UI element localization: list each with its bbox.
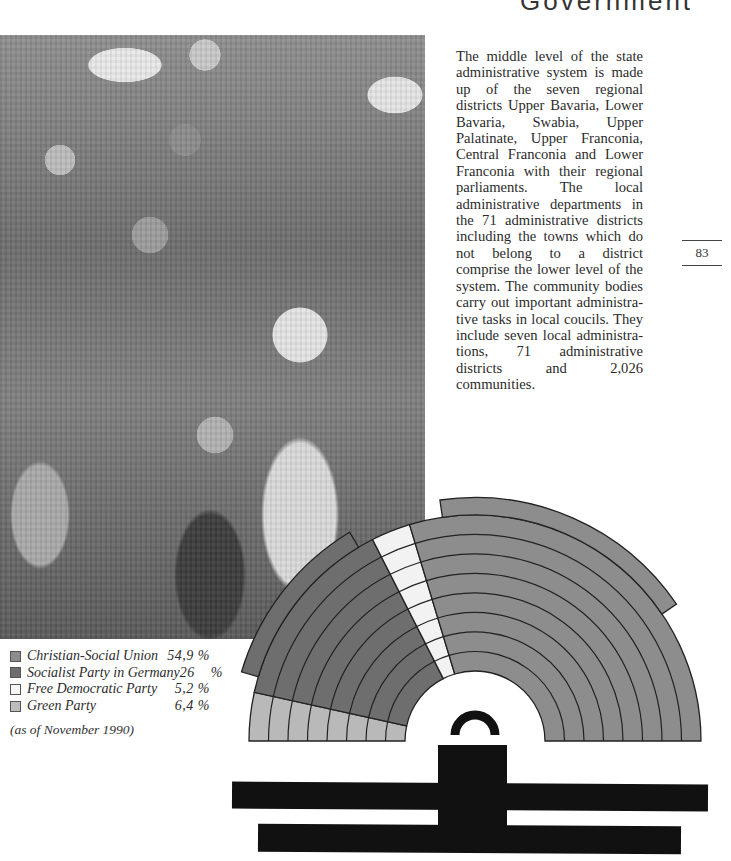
legend-value: 5,2 % — [157, 681, 210, 697]
legend-label: Free Democratic Party — [27, 681, 157, 697]
podium-block — [438, 745, 507, 841]
podium-arc — [455, 715, 495, 735]
page-number-rule-bottom — [682, 265, 722, 266]
crowd-photo — [0, 35, 425, 639]
seat-row-line — [415, 535, 681, 741]
legend-label: Socialist Party in Germany — [27, 665, 180, 681]
legend: Christian-Social Union 54,9 % Socialist … — [10, 648, 210, 714]
seat-row-line — [438, 613, 604, 742]
seat-row-line — [369, 644, 426, 718]
seat-row-line — [308, 705, 312, 741]
legend-swatch — [10, 667, 21, 678]
seat-row-line — [434, 655, 449, 661]
podium-bar-upper — [232, 782, 708, 812]
seat-row-line — [327, 709, 330, 741]
legend-swatch — [10, 701, 21, 712]
body-paragraph: The middle level of the state ad­ministr… — [456, 48, 643, 393]
podium-graphic — [232, 715, 708, 854]
legend-label: Green Party — [27, 698, 154, 714]
seat-row-line — [426, 574, 642, 742]
seat-row-line — [347, 713, 350, 741]
sector-green-party — [249, 692, 407, 741]
legend-note: (as of November 1990) — [10, 722, 134, 738]
legend-value: 6,4 % — [154, 698, 210, 714]
legend-item: Christian-Social Union 54,9 % — [10, 648, 210, 665]
seat-row-line — [269, 696, 274, 741]
legend-value: 54,9 % — [158, 648, 210, 664]
seat-row-line — [443, 632, 584, 741]
legend-item: Socialist Party in Germany 26 % — [10, 665, 210, 682]
header-fragment: Government — [520, 0, 693, 17]
photo-grain — [0, 35, 425, 639]
seat-row-line — [386, 722, 388, 741]
page-number-text: 83 — [682, 241, 722, 265]
legend-label: Christian-Social Union — [27, 648, 158, 664]
podium-bar-lower — [258, 824, 681, 855]
seat-row-line — [366, 717, 369, 741]
legend-swatch — [10, 684, 21, 695]
legend-item: Green Party 6,4 % — [10, 698, 210, 715]
seat-row-line — [421, 554, 662, 741]
sector-christian-social-union — [410, 515, 701, 741]
seat-row-line — [426, 637, 444, 644]
seat-row-line — [388, 661, 435, 721]
legend-swatch — [10, 651, 21, 662]
seat-row-line — [432, 593, 623, 741]
seat-row-line — [350, 626, 417, 713]
seat-row-line — [288, 701, 292, 741]
page-number: 83 — [682, 240, 722, 266]
legend-item: Free Democratic Party 5,2 % — [10, 681, 210, 698]
legend-value: 26 % — [180, 665, 223, 681]
sector-tab-christian-social-union — [440, 497, 677, 614]
seat-row-line — [449, 651, 564, 741]
